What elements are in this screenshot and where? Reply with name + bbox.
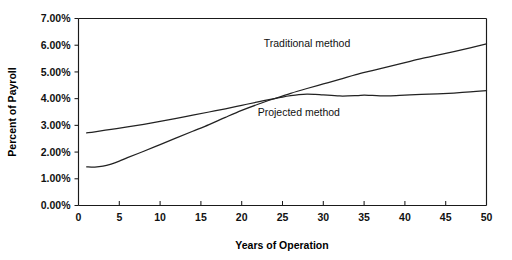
x-tick-label: 40 [399,211,411,223]
y-tick-label: 4.00% [41,92,71,104]
x-tick-label: 15 [195,211,207,223]
line-chart: Percent of Payroll Years of Operation 0.… [0,0,512,260]
y-tick-label: 1.00% [41,172,71,184]
x-axis-title: Years of Operation [235,239,328,251]
y-tick-label: 5.00% [41,66,71,78]
y-tick-label: 0.00% [41,199,71,211]
y-tick-label: 2.00% [41,146,71,158]
y-tick-label: 6.00% [41,39,71,51]
x-tick-label: 45 [440,211,452,223]
x-tick-label: 10 [154,211,166,223]
y-tick-label: 7.00% [41,12,71,24]
chart-container: Percent of Payroll Years of Operation 0.… [0,0,512,260]
x-tick-label: 20 [236,211,248,223]
x-tick-label: 0 [76,211,82,223]
x-tick-label: 35 [358,211,370,223]
x-tick-label: 25 [277,211,289,223]
x-tick-label: 5 [116,211,122,223]
x-tick-label: 50 [481,211,493,223]
series-label-projected: Projected method [258,106,340,118]
series-label-traditional: Traditional method [264,37,351,49]
x-tick-label: 30 [317,211,329,223]
y-axis-title: Percent of Payroll [6,67,18,156]
y-tick-label: 3.00% [41,119,71,131]
